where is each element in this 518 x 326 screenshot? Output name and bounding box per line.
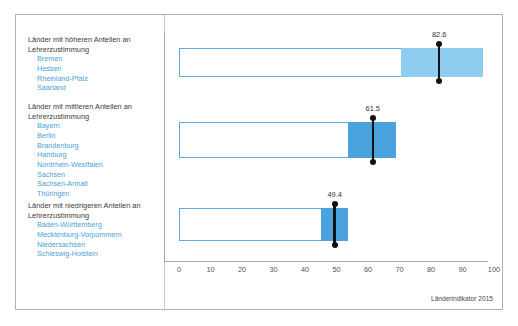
marker-endpoint-dot bbox=[370, 115, 376, 121]
bar-band-fill bbox=[401, 48, 483, 77]
list-item: Hessen bbox=[28, 64, 160, 74]
marker-value-label: 61.5 bbox=[366, 104, 380, 113]
list-item: Schleswig-Holstein bbox=[28, 249, 160, 259]
x-tick-label: 80 bbox=[427, 265, 435, 274]
x-tick-label: 30 bbox=[269, 265, 277, 274]
list-item: Mecklenburg-Vorpommern bbox=[28, 230, 160, 240]
list-item: Bayern bbox=[28, 121, 160, 131]
legend-group-title: Länder mit niedrigeren Anteilen an bbox=[28, 201, 160, 211]
x-axis-line bbox=[164, 261, 488, 262]
x-tick-label: 40 bbox=[301, 265, 309, 274]
state-list: Baden-Württemberg Mecklenburg-Vorpommern… bbox=[28, 220, 160, 259]
state-list: Bayern Berlin Brandenburg Hamburg Nordrh… bbox=[28, 121, 160, 199]
legend-group-title: Länder mit mittleren Anteilen an bbox=[28, 102, 160, 112]
legend-group-title-cont: Lehrerzustimmung bbox=[28, 45, 160, 55]
list-item: Brandenburg bbox=[28, 141, 160, 151]
x-tick-label: 0 bbox=[177, 265, 181, 274]
x-tick-label: 90 bbox=[458, 265, 466, 274]
list-item: Baden-Württemberg bbox=[28, 220, 160, 230]
x-tick-label: 70 bbox=[395, 265, 403, 274]
list-item: Nordrhein-Westfalen bbox=[28, 160, 160, 170]
x-tick-label: 10 bbox=[206, 265, 214, 274]
marker-endpoint-dot bbox=[332, 242, 338, 248]
plot-area: 82.661.549.4 0102030405060708090100 bbox=[164, 15, 503, 311]
x-tick-label: 100 bbox=[488, 265, 500, 274]
list-item: Bremen bbox=[28, 54, 160, 64]
marker-endpoint-dot bbox=[436, 41, 442, 47]
legend-group-middle: Länder mit mittleren Anteilen an Lehrerz… bbox=[28, 102, 160, 199]
bar-row[interactable] bbox=[179, 122, 396, 158]
legend-group-lower: Länder mit niedrigeren Anteilen an Lehre… bbox=[28, 201, 160, 259]
state-list: Bremen Hessen Rheinland-Pfalz Saarland bbox=[28, 54, 160, 93]
marker-endpoint-dot bbox=[436, 78, 442, 84]
list-item: Saarland bbox=[28, 83, 160, 93]
list-item: Niedersachsen bbox=[28, 240, 160, 250]
marker-line bbox=[372, 118, 374, 162]
marker-value-label: 49.4 bbox=[327, 190, 341, 199]
list-item: Thüringen bbox=[28, 189, 160, 199]
y-axis-line bbox=[164, 33, 165, 262]
marker-line bbox=[438, 44, 440, 81]
x-tick-label: 20 bbox=[238, 265, 246, 274]
chart-frame: Länder mit höheren Anteilen an Lehrerzus… bbox=[15, 14, 503, 310]
marker-endpoint-dot bbox=[370, 159, 376, 165]
marker-endpoint-dot bbox=[332, 201, 338, 207]
list-item: Rheinland-Pfalz bbox=[28, 74, 160, 84]
x-tick-label: 60 bbox=[364, 265, 372, 274]
legend-group-title-cont: Lehrerzustimmung bbox=[28, 211, 160, 221]
legend-group-title-cont: Lehrerzustimmung bbox=[28, 112, 160, 122]
bar-row[interactable] bbox=[179, 208, 348, 241]
list-item: Sachsen-Anhalt bbox=[28, 179, 160, 189]
legend-group-title: Länder mit höheren Anteilen an bbox=[28, 35, 160, 45]
source-note: Länderindikator 2015 bbox=[431, 295, 493, 302]
marker-line bbox=[333, 204, 335, 245]
x-tick-label: 50 bbox=[332, 265, 340, 274]
list-item: Berlin bbox=[28, 131, 160, 141]
list-item: Hamburg bbox=[28, 150, 160, 160]
legend-group-higher: Länder mit höheren Anteilen an Lehrerzus… bbox=[28, 35, 160, 93]
marker-value-label: 82.6 bbox=[432, 30, 446, 39]
list-item: Sachsen bbox=[28, 170, 160, 180]
